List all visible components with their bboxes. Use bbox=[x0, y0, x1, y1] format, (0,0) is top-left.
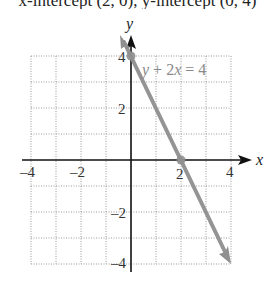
y-intercept-point bbox=[127, 52, 136, 61]
x-intercept-point bbox=[177, 156, 186, 165]
coordinate-plane: x y –4 –2 2 4 4 2 –2 –4 y + 2x = 4 bbox=[0, 0, 275, 283]
equation-label: y + 2x = 4 bbox=[140, 61, 206, 79]
y-tick-4: 4 bbox=[118, 49, 126, 65]
x-tick-minus2: –2 bbox=[69, 164, 85, 180]
x-tick-2: 2 bbox=[176, 166, 184, 182]
x-tick-4: 4 bbox=[226, 164, 234, 180]
x-tick-minus4: –4 bbox=[19, 164, 36, 180]
y-axis-label: y bbox=[124, 15, 134, 33]
y-tick-2: 2 bbox=[118, 101, 126, 117]
x-axis-label: x bbox=[255, 151, 263, 168]
y-tick-minus2: –2 bbox=[110, 205, 126, 221]
y-tick-minus4: –4 bbox=[110, 255, 127, 271]
y-axis bbox=[126, 35, 136, 272]
